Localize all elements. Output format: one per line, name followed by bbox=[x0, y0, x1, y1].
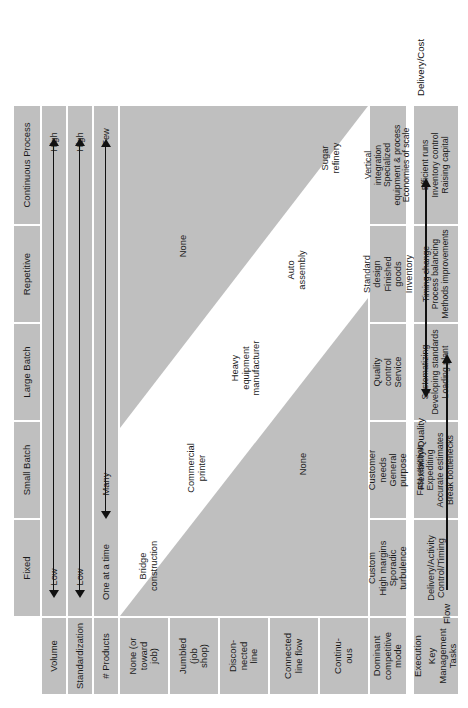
row-header-dominant-competitive-mode: Dominant competitive mode bbox=[370, 618, 406, 694]
dominant-mode-small-batch: Customer needs General purpose bbox=[370, 422, 406, 518]
arrow-volume bbox=[53, 138, 55, 598]
kmt-repetitive: Timing change Process balancing Methods … bbox=[414, 226, 458, 322]
column-header-continuous-process: Continuous Process bbox=[14, 106, 40, 224]
dominant-mode-continuous-process: Vertical integration Specialized equipme… bbox=[370, 106, 406, 224]
dominant-mode-large-batch: Quality control Service bbox=[370, 324, 406, 420]
kmt-continuous-process: Efficient runs Inventory control Raising… bbox=[414, 106, 458, 224]
process-row-label-0: None (or toward job) bbox=[120, 618, 168, 694]
column-header-small-batch: Small Batch bbox=[14, 422, 40, 518]
delivery-flexibility-axis-arrow bbox=[425, 178, 427, 398]
none-label-lower: None bbox=[298, 424, 309, 504]
column-header-fixed: Fixed bbox=[14, 520, 40, 616]
example-sugar-refinery: Sugar refinery bbox=[320, 112, 341, 204]
process-row-label-3: Connected line flow bbox=[270, 618, 318, 694]
example-heavy-equipment-manufacturer: Heavy equipment manufacturer bbox=[230, 318, 262, 418]
flow-axis-arrow bbox=[446, 354, 448, 590]
process-row-label-2: Discon- nected line bbox=[220, 618, 268, 694]
rotated-diagram: Fixed Small Batch Large Batch Repetitive… bbox=[0, 0, 468, 708]
axis-label-delivery-cost: Delivery/Cost bbox=[415, 39, 426, 96]
dominant-mode-fixed: Custom High margins Sporadic turbulence bbox=[370, 520, 406, 616]
arrow-standardization bbox=[79, 138, 81, 598]
execution-title: Execution bbox=[413, 635, 424, 677]
execution-sub3: Tasks bbox=[448, 644, 459, 668]
none-label-upper: None bbox=[178, 206, 189, 286]
product-process-matrix: Fixed Small Batch Large Batch Repetitive… bbox=[14, 64, 406, 694]
execution-header: Execution Key Management Tasks bbox=[414, 618, 458, 694]
key-management-tasks-panel: Execution Key Management Tasks Delivery/… bbox=[414, 64, 458, 694]
kmt-large-batch: Systematizing Developing standards Loadi… bbox=[414, 324, 458, 420]
example-auto-assembly: Auto assembly bbox=[286, 224, 307, 316]
execution-sub1: Key bbox=[427, 648, 438, 664]
axis-label-flexibility-quality: Flexibility/Quality bbox=[415, 418, 426, 490]
row-header-volume: Volume bbox=[42, 618, 66, 694]
flow-axis-label: Flow bbox=[441, 604, 452, 624]
diagram-canvas: Fixed Small Batch Large Batch Repetitive… bbox=[0, 0, 468, 708]
matrix-field: None None Bridge construction Commercial… bbox=[120, 106, 368, 616]
arrow-num-products bbox=[105, 139, 107, 519]
process-row-label-4: Continu- ous bbox=[320, 618, 368, 694]
row-header-standardization: Standardization bbox=[68, 618, 92, 694]
kmt-fixed: Delivery/Activity Control/Timing bbox=[414, 520, 458, 616]
row-header-num-products: # Products bbox=[94, 618, 118, 694]
dominant-mode-repetitive: Standard design Finished goods Inventory bbox=[370, 226, 406, 322]
column-header-large-batch: Large Batch bbox=[14, 324, 40, 420]
example-commercial-printer: Commercial printer bbox=[186, 422, 207, 514]
scale-products-one: One at a time bbox=[101, 532, 111, 612]
process-row-label-1: Jumbled (job shop) bbox=[170, 618, 218, 694]
column-header-repetitive: Repetitive bbox=[14, 226, 40, 322]
example-bridge-construction: Bridge construction bbox=[138, 520, 159, 612]
